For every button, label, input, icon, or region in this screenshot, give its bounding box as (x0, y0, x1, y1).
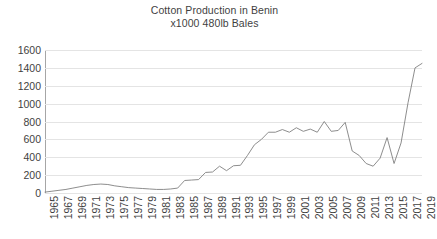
y-axis-tick-label: 800 (0, 116, 41, 128)
series-line-cotton-production (45, 50, 422, 193)
x-axis-tick-label: 1979 (147, 196, 157, 219)
x-axis-tick-label: 2005 (328, 196, 338, 219)
x-axis-tick-label: 2009 (356, 196, 366, 219)
x-axis-tick-label: 1967 (63, 196, 73, 219)
plot-area (45, 50, 422, 193)
x-axis-tick-label: 2017 (412, 196, 422, 219)
chart-title-block: Cotton Production in Benin x1000 480lb B… (0, 4, 429, 30)
y-axis-tick-label: 1600 (0, 44, 41, 56)
y-axis-tick-labels: 16001400120010008006004002000 (0, 50, 41, 193)
x-axis-tick-label: 1969 (77, 196, 87, 219)
y-axis-tick-label: 1400 (0, 62, 41, 74)
x-axis-tick-label: 1985 (189, 196, 199, 219)
x-axis-tick-label: 1973 (105, 196, 115, 219)
y-axis-tick-label: 200 (0, 169, 41, 181)
y-axis-tick-label: 1200 (0, 80, 41, 92)
x-axis-tick-label: 2013 (384, 196, 394, 219)
x-axis-tick-label: 1997 (272, 196, 282, 219)
x-axis-tick-label: 1995 (258, 196, 268, 219)
x-axis-tick-label: 2015 (398, 196, 408, 219)
x-axis-tick-label: 1981 (161, 196, 171, 219)
x-axis-tick-labels: 1965196719691971197319751977197919811983… (45, 196, 422, 239)
chart-title: Cotton Production in Benin (0, 4, 429, 17)
x-axis-tick-label: 2003 (314, 196, 324, 219)
x-axis-tick-label: 1989 (217, 196, 227, 219)
y-axis-tick-label: 400 (0, 151, 41, 163)
x-axis-tick-label: 2001 (300, 196, 310, 219)
gridline (45, 193, 422, 194)
x-axis-tick-label: 1965 (49, 196, 59, 219)
x-axis-tick-label: 1971 (91, 196, 101, 219)
x-axis-tick-label: 1975 (119, 196, 129, 219)
y-axis-tick-label: 0 (0, 187, 41, 199)
x-axis-tick-label: 1991 (231, 196, 241, 219)
x-axis-tick-label: 1977 (133, 196, 143, 219)
x-axis-tick-label: 1999 (286, 196, 296, 219)
chart-subtitle: x1000 480lb Bales (0, 17, 429, 30)
y-axis-tick-label: 1000 (0, 98, 41, 110)
x-axis-tick-label: 2019 (426, 196, 436, 219)
y-axis-tick-label: 600 (0, 133, 41, 145)
x-axis-tick-label: 1983 (175, 196, 185, 219)
x-axis-tick-label: 2011 (370, 196, 380, 219)
x-axis-tick-label: 1987 (203, 196, 213, 219)
x-axis-tick-label: 2007 (342, 196, 352, 219)
x-axis-tick-label: 1993 (244, 196, 254, 219)
